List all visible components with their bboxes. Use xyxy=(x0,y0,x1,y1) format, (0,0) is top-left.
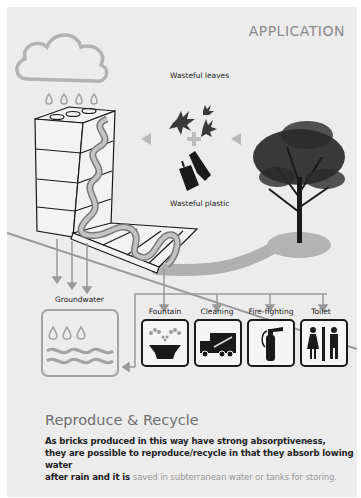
fountain-box xyxy=(141,319,189,367)
plastic-bottles-icon xyxy=(179,151,211,191)
body-line-1: As bricks produced in this way have stro… xyxy=(45,435,361,447)
toilet-box xyxy=(300,319,348,367)
section-title: Reproduce & Recycle xyxy=(45,412,199,428)
wasteful-leaves-label: Wasteful leaves xyxy=(170,71,229,80)
raindrops-icon xyxy=(46,94,97,104)
fire-extinguisher-icon xyxy=(249,321,293,365)
body-line-2: they are possible to reproduce/recycle i… xyxy=(45,447,361,471)
use-label-cleaning: Cleaning xyxy=(195,307,239,316)
toilet-icon xyxy=(302,321,346,365)
cleaning-box xyxy=(194,319,242,367)
infographic-page: APPLICATION xyxy=(7,7,357,497)
use-label-fire-fighting: Fire-fighting xyxy=(245,307,297,316)
use-label-fountain: Fountain xyxy=(143,307,187,316)
wasteful-plastic-label: Wasteful plastic xyxy=(170,199,229,208)
use-label-toilet: Toilet xyxy=(299,307,343,316)
body-line-3-muted: saved in subterranean water or tanks for… xyxy=(133,472,337,482)
body-line-3-dark: after rain and it is xyxy=(45,472,133,482)
groundwater-arrows xyxy=(53,239,91,293)
groundwater-label: Groundwater xyxy=(55,295,104,304)
tree-icon xyxy=(253,121,345,243)
water-icon xyxy=(43,311,117,375)
cloud-icon xyxy=(17,35,107,81)
plus-icon xyxy=(187,132,201,146)
groundwater-tank xyxy=(41,309,119,377)
cleaning-truck-icon xyxy=(196,321,240,365)
fire-fighting-box xyxy=(247,319,295,367)
section-body: As bricks produced in this way have stro… xyxy=(45,435,361,483)
body-line-3: after rain and it is saved in subterrane… xyxy=(45,471,361,483)
fountain-icon xyxy=(143,321,187,365)
